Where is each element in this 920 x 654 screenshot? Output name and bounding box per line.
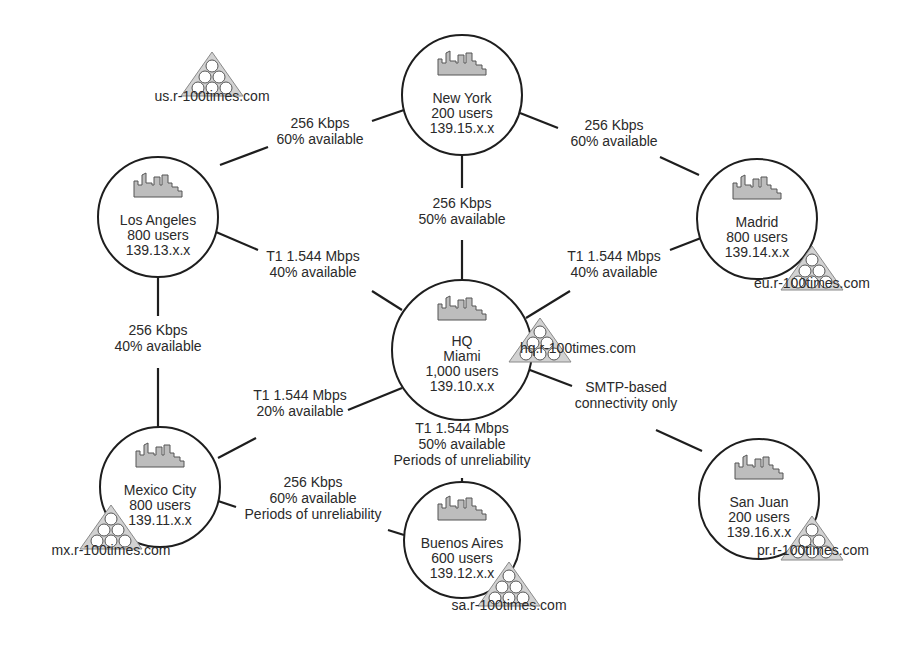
link-label-line: connectivity only [575,395,678,411]
site-users: 600 users [431,550,492,566]
link-label-line: Periods of unreliability [245,506,382,522]
site-users: 1,000 users [425,363,498,379]
link-label-line: 60% available [269,490,356,506]
site-name: New York [432,90,492,106]
link-label-line: 60% available [570,133,657,149]
site-users: 200 users [728,509,789,525]
site-name: Buenos Aires [421,535,504,551]
link-line [526,291,570,318]
domain-label: eu.r-100times.com [754,275,870,291]
site-name: Madrid [736,214,779,230]
link-label-line: 50% available [418,211,505,227]
domain-label: sa.r-100times.com [451,597,566,613]
site-subnet: 139.14.x.x [725,244,790,260]
link-line [220,147,268,165]
link-label-line: 256 Kbps [128,322,187,338]
link-label-line: 40% available [269,264,356,280]
link-label-line: 256 Kbps [432,195,491,211]
link-label: T1 1.544 Mbps20% available [253,387,346,419]
link-label-line: 50% available [418,436,505,452]
site-subnet: 139.13.x.x [126,242,191,258]
link-label: 256 Kbps60% available [276,115,363,147]
domain-label: us.r-100times.com [154,88,269,104]
site-subnet: 139.16.x.x [727,524,792,540]
link-label: SMTP-basedconnectivity only [575,379,678,411]
link-line [656,430,702,451]
site-subnet: 139.10.x.x [430,378,495,394]
link-label-line: 60% available [276,131,363,147]
link-line [520,113,558,128]
site-node-hq[interactable]: HQMiami1,000 users139.10.x.x [392,280,532,420]
link-label-line: T1 1.544 Mbps [266,248,359,264]
site-users: 800 users [127,227,188,243]
link-line [218,501,236,507]
link-label-line: SMTP-based [585,379,667,395]
domain-label: hq.r-100times.com [520,340,636,356]
link-label: 256 Kbps60% available [570,117,657,149]
site-node-la[interactable]: Los Angeles800 users139.13.x.x [98,157,218,277]
link-label-line: T1 1.544 Mbps [253,387,346,403]
site-node-madrid[interactable]: Madrid800 users139.14.x.x [697,159,817,279]
link-line [388,530,404,535]
link-label: T1 1.544 Mbps50% availablePeriods of unr… [394,420,531,468]
link-label-line: 40% available [114,338,201,354]
link-line [670,238,701,250]
site-subnet: 139.11.x.x [128,512,192,528]
link-line [372,110,404,121]
link-label-line: 256 Kbps [290,115,349,131]
domain-label: mx.r-100times.com [51,542,170,558]
site-name: San Juan [729,494,788,510]
site-subnet: 139.15.x.x [430,120,495,136]
network-diagram: New York200 users139.15.x.xLos Angeles80… [0,0,920,654]
link-label-line: 20% available [256,403,343,419]
site-users: 200 users [431,105,492,121]
site-node-ny[interactable]: New York200 users139.15.x.x [402,35,522,155]
link-label: T1 1.544 Mbps40% available [567,248,660,280]
link-label: 256 Kbps60% availablePeriods of unreliab… [245,474,382,522]
site-title: HQ [452,333,473,349]
site-users: 800 users [726,229,787,245]
link-label-line: T1 1.544 Mbps [415,420,508,436]
nodes-layer: New York200 users139.15.x.xLos Angeles80… [98,35,819,598]
site-subnet: 139.12.x.x [430,565,495,581]
link-label: 256 Kbps40% available [114,322,201,354]
link-line [216,232,258,250]
site-users: 800 users [129,497,190,513]
link-line [218,438,256,458]
link-label-line: 40% available [570,264,657,280]
link-label-line: 256 Kbps [584,117,643,133]
site-name: Miami [443,348,480,364]
link-line [348,388,402,410]
link-label-line: Periods of unreliability [394,452,531,468]
site-name: Mexico City [124,482,196,498]
link-line [372,291,402,310]
link-line [660,157,699,175]
link-label: T1 1.544 Mbps40% available [266,248,359,280]
domain-label: pr.r-100times.com [757,542,869,558]
domain-us[interactable]: us.r-100times.com [154,52,269,104]
link-label: 256 Kbps50% available [418,195,505,227]
link-label-line: T1 1.544 Mbps [567,248,660,264]
link-label-line: 256 Kbps [283,474,342,490]
site-name: Los Angeles [120,212,196,228]
